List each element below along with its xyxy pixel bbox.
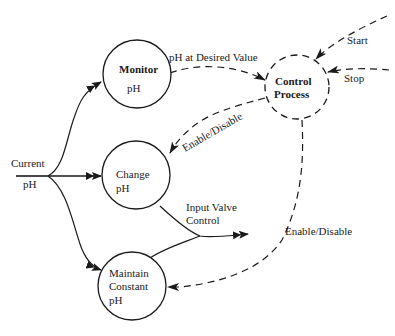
maintain-label-2: Constant: [109, 280, 148, 292]
input-valve-label-2: Control: [186, 214, 220, 226]
enable-disable-maintain-label: Enable/Disable: [285, 225, 352, 237]
node-monitor-ph: Monitor pH: [103, 40, 171, 108]
monitor-label-1: Monitor: [119, 63, 158, 75]
input-valve-label-1: Input Valve: [186, 201, 237, 213]
change-label-1: Change: [116, 168, 150, 180]
current-ph-label-1: Current: [11, 157, 45, 169]
ph-control-diagram: Current pH pH at Desired Value Start Sto…: [0, 0, 395, 336]
monitor-label-2: pH: [127, 82, 141, 94]
enable-disable-change-label: Enable/Disable: [180, 110, 244, 154]
flow-to-monitor: [48, 82, 101, 176]
node-maintain-constant-ph: Maintain Constant pH: [98, 252, 166, 320]
current-ph-flow: [16, 82, 101, 270]
start-label: Start: [347, 34, 368, 46]
node-change-ph: Change pH: [102, 141, 170, 209]
control-label-1: Control: [275, 75, 311, 87]
current-ph-label-2: pH: [23, 178, 37, 190]
ph-desired-flow: [170, 67, 265, 80]
maintain-label-3: pH: [109, 294, 123, 306]
control-label-2: Process: [274, 88, 310, 100]
maintain-valve-flow: [150, 236, 200, 258]
flow-to-maintain: [48, 176, 101, 270]
node-control-process: Control Process: [265, 55, 329, 119]
ph-desired-label: pH at Desired Value: [169, 51, 258, 63]
change-label-2: pH: [116, 182, 130, 194]
stop-label: Stop: [344, 72, 365, 84]
maintain-label-1: Maintain: [109, 267, 149, 279]
